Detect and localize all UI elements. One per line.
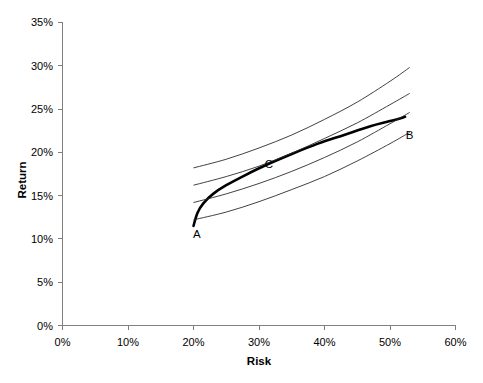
x-tick-label-0: 0%	[55, 336, 71, 348]
y-tick-label-25: 25%	[31, 103, 53, 115]
y-tick-label-15: 15%	[31, 190, 53, 202]
x-tick-label-30: 30%	[248, 336, 270, 348]
x-axis-title: Risk	[247, 355, 272, 367]
point-label-a: A	[193, 228, 201, 240]
x-tick-label-20: 20%	[182, 336, 204, 348]
y-tick-label-0: 0%	[37, 320, 53, 332]
y-tick-label-20: 20%	[31, 146, 53, 158]
x-tick-label-10: 10%	[117, 336, 139, 348]
chart-container: 0% 5% 10% 15% 20% 25% 30% 35% 0% 10% 20%…	[0, 0, 483, 383]
y-tick-label-30: 30%	[31, 60, 53, 72]
point-label-c: C	[265, 158, 273, 170]
y-tick-label-35: 35%	[31, 16, 53, 28]
y-axis-title: Return	[16, 161, 28, 198]
x-tick-label-50: 50%	[379, 336, 401, 348]
risk-return-chart: 0% 5% 10% 15% 20% 25% 30% 35% 0% 10% 20%…	[0, 0, 483, 383]
y-tick-label-5: 5%	[37, 276, 53, 288]
point-label-b: B	[406, 129, 414, 141]
x-tick-label-60: 60%	[444, 336, 466, 348]
y-tick-label-10: 10%	[31, 233, 53, 245]
x-tick-label-40: 40%	[313, 336, 335, 348]
